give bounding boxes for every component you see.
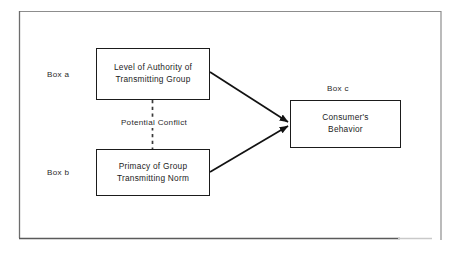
potential-conflict-label: Potential Conflict — [108, 117, 200, 128]
node-box-a-line2: Transmitting Group — [114, 74, 192, 86]
node-box-a-line1: Level of Authority of — [114, 62, 192, 74]
node-box-b[interactable]: Primacy of Group Transmitting Norm — [96, 149, 210, 196]
figure-canvas: Level of Authority of Transmitting Group… — [0, 0, 457, 254]
node-box-b-line1: Primacy of Group — [117, 161, 189, 173]
node-box-c[interactable]: Consumer's Behavior — [290, 100, 401, 148]
node-box-c-line1: Consumer's — [322, 112, 369, 124]
node-box-b-line2: Transmitting Norm — [117, 173, 189, 185]
side-label-box-b: Box b — [47, 168, 69, 177]
side-label-box-c: Box c — [327, 84, 349, 93]
side-label-box-a: Box a — [47, 70, 69, 79]
node-box-c-line2: Behavior — [322, 124, 369, 136]
node-box-a[interactable]: Level of Authority of Transmitting Group — [96, 48, 210, 100]
